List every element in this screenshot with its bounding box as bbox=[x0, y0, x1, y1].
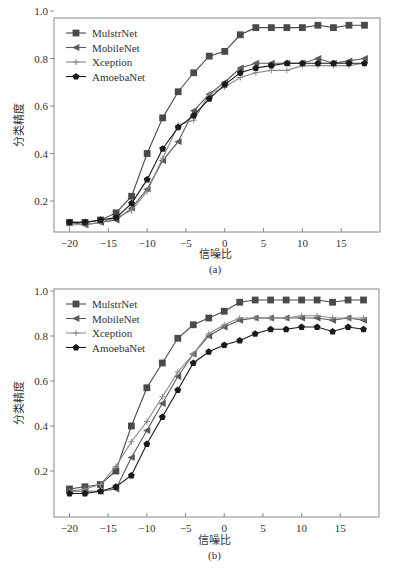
square-marker bbox=[159, 114, 166, 121]
x-tick-label: −20 bbox=[61, 522, 79, 534]
chart-a-plot: 0.20.40.60.81.0−20−15−10−5051015分类精度信噪比(… bbox=[0, 0, 397, 280]
square-marker bbox=[360, 297, 367, 304]
square-marker bbox=[268, 24, 275, 31]
circle-marker bbox=[252, 330, 259, 337]
square-marker bbox=[190, 69, 197, 76]
legend-item-xception: Xception bbox=[66, 327, 133, 339]
square-marker bbox=[298, 297, 305, 304]
legend-item-mobilenet: MobileNet bbox=[66, 42, 140, 54]
triangle-marker bbox=[72, 315, 79, 322]
series-xception bbox=[67, 60, 368, 228]
y-tick-label: 0.8 bbox=[34, 330, 48, 342]
x-tick-label: 10 bbox=[297, 237, 309, 249]
y-tick-label: 0.4 bbox=[34, 148, 48, 160]
square-marker bbox=[128, 193, 135, 200]
triangle-marker bbox=[127, 454, 134, 461]
x-tick-label: 0 bbox=[221, 522, 227, 534]
x-tick-label: 5 bbox=[261, 237, 267, 249]
circle-marker bbox=[298, 323, 305, 330]
x-tick-label: 15 bbox=[336, 237, 348, 249]
y-tick-label: 1.0 bbox=[34, 285, 48, 297]
square-marker bbox=[283, 24, 290, 31]
square-marker bbox=[144, 150, 151, 157]
legend-label: MulstrNet bbox=[92, 298, 137, 310]
legend-label: AmoebaNet bbox=[92, 71, 145, 83]
legend-label: MobileNet bbox=[92, 313, 140, 325]
square-marker bbox=[267, 297, 274, 304]
square-marker bbox=[237, 31, 244, 38]
x-tick-label: −15 bbox=[100, 522, 118, 534]
square-marker bbox=[159, 360, 166, 367]
series-line bbox=[70, 25, 365, 222]
circle-marker bbox=[128, 472, 135, 479]
legend-label: Xception bbox=[92, 56, 133, 68]
series-mulstrnet bbox=[66, 297, 367, 493]
x-tick-label: −10 bbox=[139, 237, 157, 249]
square-marker bbox=[221, 308, 228, 315]
y-axis-label: 分类精度 bbox=[12, 103, 26, 147]
circle-marker bbox=[143, 440, 150, 447]
legend-item-mulstrnet: MulstrNet bbox=[66, 27, 137, 39]
triangle-marker bbox=[174, 138, 181, 145]
square-marker bbox=[361, 22, 368, 29]
circle-marker bbox=[236, 337, 243, 344]
y-axis-label: 分类精度 bbox=[12, 381, 26, 425]
legend-item-mulstrnet: MulstrNet bbox=[66, 298, 137, 310]
square-marker bbox=[206, 53, 213, 60]
legend-label: MulstrNet bbox=[92, 27, 137, 39]
chart-caption: (b) bbox=[208, 549, 221, 562]
x-tick-label: −5 bbox=[180, 522, 192, 534]
square-marker bbox=[175, 88, 182, 95]
y-tick-label: 0.2 bbox=[34, 195, 48, 207]
legend-label: Xception bbox=[92, 327, 133, 339]
circle-marker bbox=[314, 323, 321, 330]
triangle-marker bbox=[143, 427, 150, 434]
square-marker bbox=[143, 384, 150, 391]
square-marker bbox=[73, 30, 80, 37]
circle-marker bbox=[221, 341, 228, 348]
y-tick-label: 0.2 bbox=[34, 465, 48, 477]
x-tick-label: −15 bbox=[100, 237, 118, 249]
square-marker bbox=[128, 423, 135, 430]
square-marker bbox=[221, 48, 228, 55]
circle-marker bbox=[283, 326, 290, 333]
square-marker bbox=[190, 321, 197, 328]
circle-marker bbox=[174, 386, 181, 393]
circle-marker bbox=[73, 344, 80, 351]
circle-marker bbox=[73, 73, 80, 80]
circle-marker bbox=[345, 323, 352, 330]
legend: MulstrNetMobileNetXceptionAmoebaNet bbox=[66, 298, 145, 354]
square-marker bbox=[299, 24, 306, 31]
x-axis-label: 信噪比 bbox=[199, 248, 232, 261]
y-tick-label: 1.0 bbox=[34, 5, 48, 17]
chart-caption: (a) bbox=[209, 263, 222, 276]
series-line bbox=[70, 63, 365, 225]
series-xception bbox=[66, 313, 366, 495]
triangle-marker bbox=[72, 44, 79, 51]
x-axis-label: 信噪比 bbox=[198, 534, 231, 547]
x-tick-label: 15 bbox=[335, 522, 347, 534]
x-tick-label: −10 bbox=[138, 522, 156, 534]
circle-marker bbox=[159, 413, 166, 420]
plus-marker bbox=[284, 67, 290, 73]
square-marker bbox=[283, 297, 290, 304]
circle-marker bbox=[329, 328, 336, 335]
x-tick-label: 5 bbox=[260, 522, 266, 534]
square-marker bbox=[346, 22, 353, 29]
square-marker bbox=[252, 24, 259, 31]
square-marker bbox=[252, 297, 259, 304]
square-marker bbox=[205, 315, 212, 322]
circle-marker bbox=[360, 326, 367, 333]
y-tick-label: 0.6 bbox=[34, 100, 48, 112]
circle-marker bbox=[128, 200, 135, 207]
chart-b-plot: 0.20.40.60.81.0−20−15−10−5051015分类精度信噪比(… bbox=[0, 280, 397, 573]
square-marker bbox=[73, 301, 80, 308]
x-tick-label: −20 bbox=[61, 237, 79, 249]
legend-item-mobilenet: MobileNet bbox=[66, 313, 140, 325]
square-marker bbox=[315, 22, 322, 29]
square-marker bbox=[329, 299, 336, 306]
legend-label: MobileNet bbox=[92, 42, 140, 54]
legend-item-amoebanet: AmoebaNet bbox=[66, 71, 145, 83]
plus-marker bbox=[73, 330, 79, 336]
series-amoebanet bbox=[66, 60, 368, 226]
